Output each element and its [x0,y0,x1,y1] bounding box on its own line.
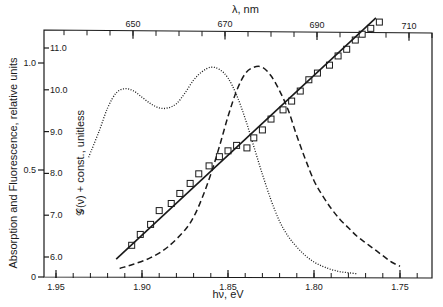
chart-plot: 1.951.901.851.801.7565067069071000.51.06… [0,0,443,307]
y2-tick-label: 11.0 [50,43,67,53]
x2-tick-label: 710 [401,21,416,31]
x-tick-label: 1.95 [47,282,65,292]
y-tick-label: 0 [31,272,36,282]
x2-tick-label: 650 [125,19,140,29]
x-tick-label: 1.90 [133,282,151,292]
y-axis-title: Absorption and Fluorescence, relative un… [7,57,19,268]
y2-tick-label: 10.0 [50,85,68,95]
x-tick-label: 1.75 [391,282,409,292]
chart-figure: 1.951.901.851.801.7565067069071000.51.06… [0,0,443,307]
x-tick-label: 1.80 [305,282,323,292]
y2-tick-label: 8.0 [50,168,63,178]
data-point-square [187,180,193,186]
y-tick-label: 1.0 [23,58,36,68]
data-point-square [244,145,250,151]
x2-tick-label: 670 [217,19,232,29]
data-point-square [259,127,265,133]
linear-fit-line [116,18,376,259]
y2-tick-label: 6.0 [50,252,63,262]
axes-box [44,30,432,278]
x-axis-title: hν, eV [212,288,244,300]
y2-tick-label: 7.0 [50,210,63,220]
y2-tick-label: 9.0 [50,127,63,137]
y-tick-label: 0.5 [23,165,36,175]
data-series [89,18,400,274]
data-point-square [216,154,222,160]
data-point-square [156,208,162,214]
x2-tick-label: 690 [309,20,324,30]
plot-frame [44,30,432,278]
data-point-square [206,163,212,169]
data-point-square [177,190,183,196]
data-point-square [196,171,202,177]
x2-axis-title: λ, nm [232,3,259,15]
y2-axis-title: 𝒢(ν) + const., unitless [74,109,86,216]
fluorescence-curve [120,66,400,268]
data-point-square [280,107,286,113]
data-point-square [376,19,382,25]
data-point-square [368,25,374,31]
data-point-square [251,135,257,141]
